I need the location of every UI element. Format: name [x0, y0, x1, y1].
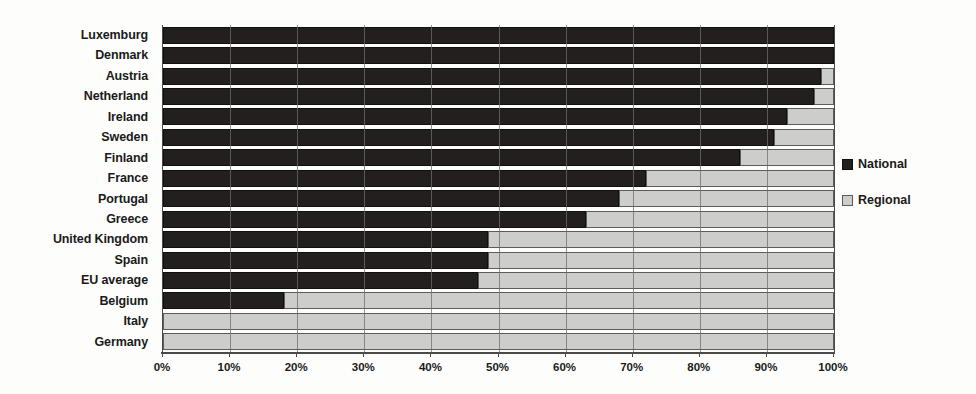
bar-segment-national [163, 27, 834, 44]
bar-segment-national [163, 252, 488, 269]
x-axis-tick-label: 60% [553, 361, 576, 373]
x-axis-tick-label: 10% [218, 361, 241, 373]
bar-row [163, 129, 834, 146]
x-axis-tick [766, 352, 767, 357]
x-axis-tick-label: 90% [754, 361, 777, 373]
x-axis-tick-label: 80% [687, 361, 710, 373]
bar-segment-national [163, 292, 284, 309]
bar-segment-national [163, 231, 488, 248]
bar-segment-national [163, 149, 740, 166]
bar-row [163, 88, 834, 105]
bar-segment-regional [163, 313, 834, 330]
y-axis-category-labels: LuxemburgDenmarkAustriaNetherlandIreland… [0, 25, 156, 352]
bar-segment-national [163, 129, 774, 146]
x-axis-tick [430, 352, 431, 357]
y-axis-label: France [108, 168, 148, 188]
y-axis-label: Portugal [98, 189, 148, 209]
bar-segment-national [163, 88, 814, 105]
x-axis-tick-label: 50% [486, 361, 509, 373]
x-axis-tick [498, 352, 499, 357]
bar-row [163, 27, 834, 44]
bar-segment-regional [284, 292, 834, 309]
bar-segment-regional [821, 68, 834, 85]
stacked-bar-chart: LuxemburgDenmarkAustriaNetherlandIreland… [0, 0, 976, 394]
x-axis-tick-label: 20% [285, 361, 308, 373]
legend-item-national[interactable]: National [842, 155, 907, 173]
bar-row [163, 68, 834, 85]
bar-row [163, 149, 834, 166]
bar-segment-regional [787, 108, 834, 125]
bar-segment-regional [814, 88, 834, 105]
x-axis-tick [632, 352, 633, 357]
bar-row [163, 190, 834, 207]
bar-segment-national [163, 190, 619, 207]
bar-segment-regional [740, 149, 834, 166]
x-axis-tick-labels: 0%10%20%30%40%50%60%70%80%90%100% [162, 361, 833, 379]
y-axis-label: Belgium [99, 291, 148, 311]
bar-segment-national [163, 108, 787, 125]
bar-series-container [163, 25, 834, 352]
bar-row [163, 333, 834, 350]
x-axis-tick-label: 70% [620, 361, 643, 373]
legend-label: National [858, 157, 907, 171]
y-axis-label: Italy [123, 311, 148, 331]
bar-row [163, 108, 834, 125]
y-axis-label: Finland [104, 148, 148, 168]
x-axis-tick-label: 40% [419, 361, 442, 373]
bar-segment-regional [586, 211, 834, 228]
bar-segment-regional [478, 272, 834, 289]
bar-segment-national [163, 170, 646, 187]
y-axis-label: Spain [114, 250, 148, 270]
x-axis-tick-label: 100% [818, 361, 847, 373]
chart-legend: NationalRegional [842, 155, 972, 217]
y-axis-label: Germany [95, 332, 149, 352]
bar-segment-regional [619, 190, 834, 207]
y-axis-label: Greece [106, 209, 148, 229]
x-axis-tick [296, 352, 297, 357]
y-axis-label: Denmark [95, 45, 148, 65]
y-axis-label: Netherland [84, 86, 148, 106]
bar-segment-regional [646, 170, 834, 187]
x-axis-tick [162, 352, 163, 357]
plot-area [162, 25, 835, 352]
bar-row [163, 47, 834, 64]
bar-segment-regional [488, 231, 834, 248]
x-axis-tick [229, 352, 230, 357]
x-axis-tick [833, 352, 834, 357]
bar-segment-regional [163, 333, 834, 350]
y-axis-label: Sweden [101, 127, 148, 147]
bar-segment-national [163, 211, 586, 228]
bar-row [163, 252, 834, 269]
bar-row [163, 231, 834, 248]
x-axis-ticks [162, 352, 833, 358]
x-axis-tick-label: 0% [154, 361, 171, 373]
legend-swatch-national-icon [842, 159, 853, 170]
bar-row [163, 211, 834, 228]
legend-label: Regional [858, 193, 911, 207]
bar-segment-national [163, 47, 834, 64]
bar-row [163, 272, 834, 289]
legend-swatch-regional-icon [842, 195, 853, 206]
bar-segment-national [163, 68, 821, 85]
y-axis-label: EU average [81, 270, 148, 290]
bar-row [163, 292, 834, 309]
x-axis-tick [363, 352, 364, 357]
bar-row [163, 170, 834, 187]
bar-segment-regional [774, 129, 834, 146]
bar-row [163, 313, 834, 330]
y-axis-label: Austria [106, 66, 148, 86]
legend-item-regional[interactable]: Regional [842, 191, 911, 209]
y-axis-label: United Kingdom [53, 229, 148, 249]
bar-segment-national [163, 272, 478, 289]
bar-segment-regional [488, 252, 834, 269]
x-axis-tick [565, 352, 566, 357]
x-axis-tick [699, 352, 700, 357]
y-axis-label: Ireland [108, 107, 148, 127]
x-axis-tick-label: 30% [352, 361, 375, 373]
y-axis-label: Luxemburg [81, 25, 148, 45]
